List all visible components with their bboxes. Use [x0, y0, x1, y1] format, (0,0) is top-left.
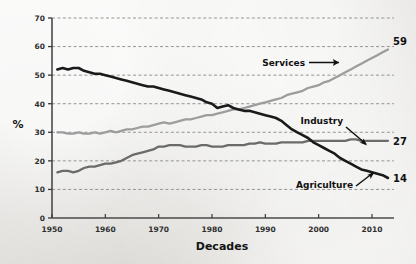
x-axis: 1950196019701980199020002010: [42, 214, 394, 234]
x-tick-label: 1960: [95, 225, 116, 234]
y-axis-ticks: 010203040506070: [35, 14, 52, 223]
x-tick-label: 2010: [362, 225, 383, 234]
annotation-agriculture: Agriculture: [296, 172, 375, 190]
y-tick-label: 10: [35, 185, 45, 194]
x-tick-label: 1990: [255, 225, 276, 234]
y-axis-title: %: [12, 118, 23, 131]
y-tick-label: 0: [40, 214, 45, 223]
series-end-labels: 592714: [393, 36, 407, 184]
x-axis-ticks: 1950196019701980199020002010: [42, 214, 383, 234]
y-tick-label: 40: [35, 100, 45, 109]
y-axis: 010203040506070: [35, 14, 52, 223]
x-axis-title: Decades: [196, 240, 249, 253]
y-tick-label: 30: [35, 128, 45, 137]
chart-canvas: 010203040506070 195019601970198019902000…: [0, 0, 416, 264]
series-label-industry: Industry: [300, 116, 343, 126]
y-tick-label: 20: [35, 157, 45, 166]
series-label-services: Services: [262, 58, 305, 68]
end-label-industry: 27: [393, 136, 407, 147]
data-series-group: [57, 49, 388, 178]
line-chart: 010203040506070 195019601970198019902000…: [0, 0, 416, 264]
y-tick-label: 70: [35, 14, 45, 23]
series-label-agriculture: Agriculture: [296, 180, 353, 190]
end-label-agriculture: 14: [393, 173, 407, 184]
x-tick-label: 1950: [42, 225, 63, 234]
y-tick-label: 50: [35, 71, 45, 80]
x-tick-label: 1980: [202, 225, 223, 234]
x-tick-label: 2000: [308, 225, 329, 234]
end-label-services: 59: [393, 36, 407, 47]
annotation-services: Services: [262, 58, 339, 68]
x-tick-label: 1970: [148, 225, 169, 234]
y-tick-label: 60: [35, 42, 45, 51]
